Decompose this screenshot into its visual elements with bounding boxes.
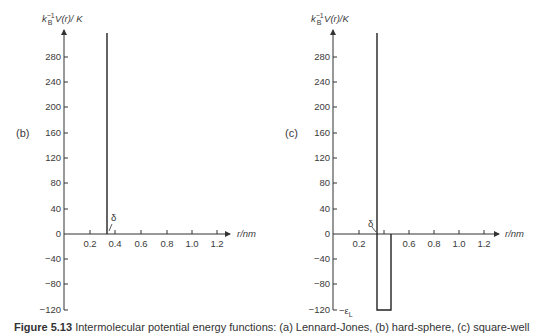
svg-text:240: 240 xyxy=(45,76,61,87)
panel-c-y-axis-title: k−1B V(r)/K xyxy=(311,12,350,26)
panel-b-x-tick-labels: 0.2 0.4 0.6 0.8 1.0 1.2 xyxy=(83,238,223,249)
svg-text:80: 80 xyxy=(319,177,330,188)
panel-c-y-ticks xyxy=(333,57,337,284)
figure-caption-label: Figure 5.13 xyxy=(14,321,72,333)
svg-text:40: 40 xyxy=(50,203,61,214)
svg-text:0.2: 0.2 xyxy=(83,238,96,249)
panel-b-delta-pointer xyxy=(109,224,112,231)
svg-text:1.2: 1.2 xyxy=(477,238,490,249)
panel-c-epsilon-label: −εL xyxy=(339,305,353,318)
svg-text:0: 0 xyxy=(56,228,61,239)
svg-text:280: 280 xyxy=(45,51,61,62)
panel-c-x-ticks xyxy=(359,230,484,234)
svg-text:−40: −40 xyxy=(45,253,61,264)
panel-b-y-ticks xyxy=(64,57,68,284)
svg-text:160: 160 xyxy=(314,127,330,138)
svg-text:−120: −120 xyxy=(309,304,330,315)
panel-c-label: (c) xyxy=(285,127,298,139)
panel-c-x-tick-labels: 0.2 0.6 0.8 1.0 1.2 xyxy=(352,238,490,249)
svg-text:0.6: 0.6 xyxy=(402,238,415,249)
svg-text:0: 0 xyxy=(325,228,330,239)
svg-text:0.8: 0.8 xyxy=(160,238,173,249)
svg-text:−80: −80 xyxy=(314,278,330,289)
panel-c-x-axis-title: r/nm xyxy=(505,228,524,239)
panel-c-delta-pointer xyxy=(372,227,376,232)
svg-text:120: 120 xyxy=(45,152,61,163)
svg-text:0.4: 0.4 xyxy=(108,238,121,249)
svg-text:−120: −120 xyxy=(40,304,61,315)
panel-b-y-tick-labels: 280 240 200 160 120 80 40 0 −40 −80 −120 xyxy=(40,51,61,315)
svg-text:160: 160 xyxy=(45,127,61,138)
figure-caption-text: Intermolecular potential energy function… xyxy=(75,321,529,333)
svg-text:1.0: 1.0 xyxy=(185,238,198,249)
figure-caption: Figure 5.13 Intermolecular potential ene… xyxy=(14,321,529,333)
svg-text:0.8: 0.8 xyxy=(427,238,440,249)
svg-text:200: 200 xyxy=(45,101,61,112)
panel-b-x-axis-title: r/nm xyxy=(237,228,256,239)
svg-text:0.2: 0.2 xyxy=(352,238,365,249)
svg-text:240: 240 xyxy=(314,76,330,87)
panel-c-y-tick-labels: 280 240 200 160 120 80 40 0 −40 −80 −120 xyxy=(309,51,330,315)
svg-text:120: 120 xyxy=(314,152,330,163)
svg-text:280: 280 xyxy=(314,51,330,62)
svg-text:−40: −40 xyxy=(314,253,330,264)
svg-text:1.2: 1.2 xyxy=(210,238,223,249)
svg-text:1.0: 1.0 xyxy=(452,238,465,249)
panel-c-chart: k−1B V(r)/K (c) 280 240 200 160 120 80 4… xyxy=(285,12,524,318)
panel-b-chart: k−1B V(r)/ K (b) 280 240 200 160 120 80 xyxy=(16,12,256,315)
svg-text:40: 40 xyxy=(319,203,330,214)
panel-b-y-axis-title: k−1B V(r)/ K xyxy=(42,12,83,26)
svg-text:80: 80 xyxy=(50,177,61,188)
panel-c-square-well xyxy=(377,33,391,310)
svg-text:0.6: 0.6 xyxy=(134,238,147,249)
panel-b-delta-label: δ xyxy=(111,212,116,223)
panel-b-label: (b) xyxy=(16,127,29,139)
svg-text:200: 200 xyxy=(314,101,330,112)
svg-text:−80: −80 xyxy=(45,278,61,289)
